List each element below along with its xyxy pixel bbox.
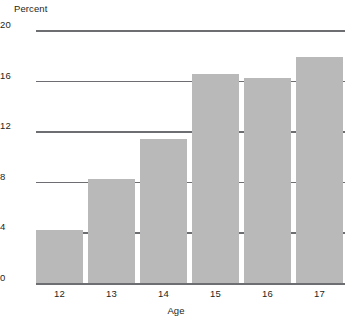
- x-tick-label-13: 13: [88, 288, 135, 299]
- gridline-12: [36, 131, 345, 133]
- axis-baseline: [36, 283, 345, 285]
- gridline-16: [36, 81, 345, 83]
- y-tick-label-0: 0: [0, 272, 30, 283]
- gridline-4: [36, 232, 345, 234]
- y-axis-title: Percent: [14, 3, 47, 14]
- y-tick-label-8: 8: [0, 171, 30, 182]
- y-tick-label-16: 16: [0, 70, 30, 81]
- bar-chart: Percent 20 16 12 8 4 0 12 13 14 15 16 17…: [0, 0, 352, 325]
- x-tick-label-14: 14: [140, 288, 187, 299]
- y-tick-label-20: 20: [0, 19, 30, 30]
- plot-area: [36, 30, 345, 283]
- y-tick-label-4: 4: [0, 221, 30, 232]
- x-tick-label-17: 17: [296, 288, 343, 299]
- x-tick-label-15: 15: [192, 288, 239, 299]
- x-axis-title: Age: [0, 305, 352, 316]
- y-tick-label-12: 12: [0, 120, 30, 131]
- gridline-8: [36, 182, 345, 184]
- x-tick-label-12: 12: [36, 288, 83, 299]
- x-tick-label-16: 16: [244, 288, 291, 299]
- gridline-20: [36, 30, 345, 32]
